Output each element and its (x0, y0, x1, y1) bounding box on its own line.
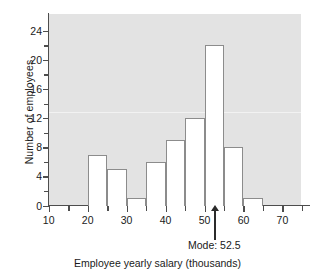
histogram-bar (185, 118, 204, 206)
histogram-bar (107, 169, 126, 205)
histogram-bar (243, 198, 262, 205)
y-tick-major (43, 118, 49, 119)
y-tick-label: 24 (30, 25, 42, 37)
mode-annotation-label: Mode: 52.5 (188, 239, 241, 251)
x-tick-label: 30 (121, 214, 133, 226)
x-tick-minor (146, 206, 147, 211)
y-tick-major (43, 31, 49, 32)
y-tick-minor (44, 191, 49, 192)
x-tick-major (49, 206, 50, 212)
x-tick-major (88, 206, 89, 212)
histogram-figure: Number of employees 04812162024 10203040… (0, 0, 315, 278)
y-tick-minor (44, 133, 49, 134)
y-tick-group (42, 0, 49, 278)
x-tick-group: 10203040506070 (0, 206, 315, 236)
y-tick-minor (44, 162, 49, 163)
x-tick-minor (185, 206, 186, 211)
x-tick-label: 40 (160, 214, 172, 226)
y-tick-major (43, 89, 49, 90)
x-tick-label: 70 (277, 214, 289, 226)
x-tick-minor (224, 206, 225, 211)
x-tick-minor (263, 206, 264, 211)
histogram-bar (127, 198, 146, 205)
x-tick-major (243, 206, 244, 212)
x-tick-minor (68, 206, 69, 211)
x-axis-title: Employee yearly salary (thousands) (0, 257, 315, 269)
x-tick-major (166, 206, 167, 212)
x-tick-label: 10 (43, 214, 55, 226)
y-tick-minor (44, 74, 49, 75)
y-tick-minor (44, 45, 49, 46)
x-tick-label: 60 (238, 214, 250, 226)
histogram-bar (224, 147, 243, 205)
mode-arrow-icon (214, 210, 215, 240)
x-tick-major (205, 206, 206, 212)
y-tick-major (43, 60, 49, 61)
histogram-bar (88, 155, 107, 206)
y-tick-label: 12 (30, 112, 42, 124)
faint-scan-line (49, 112, 301, 113)
x-tick-minor (302, 206, 303, 211)
y-tick-label: 20 (30, 54, 42, 66)
y-tick-label: 4 (36, 170, 42, 182)
histogram-bar (205, 45, 224, 205)
y-tick-label: 8 (36, 141, 42, 153)
x-tick-minor (107, 206, 108, 211)
x-tick-major (127, 206, 128, 212)
y-tick-minor (44, 104, 49, 105)
y-tick-major (43, 176, 49, 177)
histogram-bar (146, 162, 165, 206)
y-tick-major (43, 147, 49, 148)
x-tick-major (282, 206, 283, 212)
histogram-bar (166, 140, 185, 206)
x-tick-label: 50 (199, 214, 211, 226)
x-tick-label: 20 (82, 214, 94, 226)
y-tick-label: 16 (30, 83, 42, 95)
